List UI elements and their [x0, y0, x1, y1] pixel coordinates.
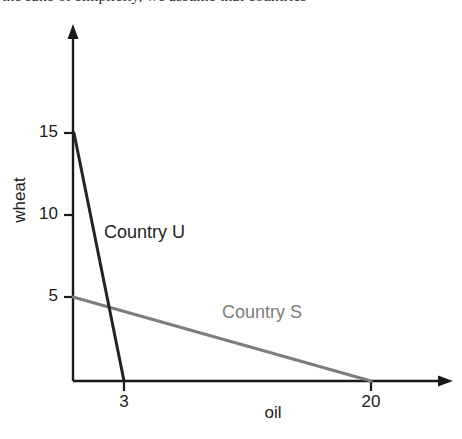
series-label-country-s: Country S	[222, 302, 302, 323]
production-possibility-frontier-plot	[0, 0, 462, 439]
series-label-country-u: Country U	[104, 222, 185, 243]
x-tick-label-3: 3	[109, 392, 139, 412]
y-tick-label-5: 5	[26, 286, 58, 306]
x-axis-arrowhead	[438, 376, 453, 387]
y-axis-arrowhead	[68, 24, 79, 39]
chart-figure: the sake of simplicity, we assume that c…	[0, 0, 462, 439]
x-tick-label-20: 20	[356, 392, 386, 412]
series-line-country-u	[74, 133, 124, 381]
y-tick-label-10: 10	[26, 204, 58, 224]
x-axis-title: oil	[243, 403, 303, 423]
y-tick-label-15: 15	[26, 122, 58, 142]
y-axis-title: wheat	[10, 165, 30, 235]
